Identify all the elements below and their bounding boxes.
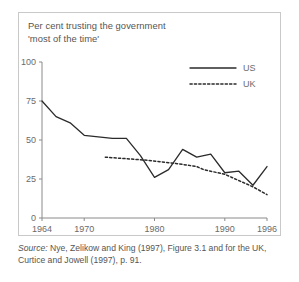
x-tick-label: 1964 <box>32 224 52 234</box>
x-tick-label: 1970 <box>74 224 94 234</box>
x-tick-label: 1980 <box>144 224 164 234</box>
chart-axes <box>39 62 267 221</box>
x-axis-tick-labels: 19641970198019901996 <box>32 224 277 234</box>
chart-series-lines <box>42 101 267 195</box>
chart-legend: USUK <box>190 63 256 89</box>
y-tick-label: 100 <box>21 57 36 67</box>
legend-label-uk: UK <box>243 79 256 89</box>
x-tick-label: 1996 <box>257 224 277 234</box>
y-tick-label: 25 <box>26 174 36 184</box>
y-tick-label: 75 <box>26 96 36 106</box>
source-label: Source: <box>18 243 48 253</box>
y-axis-tick-labels: 0255075100 <box>21 57 36 223</box>
source-line-2: Curtice and Jowell (1997), p. 91. <box>18 255 142 265</box>
x-tick-label: 1990 <box>215 224 235 234</box>
y-tick-label: 0 <box>31 213 36 223</box>
source-caption: Source: Nye, Zelikow and King (1997), Fi… <box>18 243 286 266</box>
chart-figure: Per cent trusting the government 'most o… <box>0 0 299 282</box>
source-line-1: Nye, Zelikow and King (1997), Figure 3.1… <box>50 243 266 253</box>
chart-plot-area: 0255075100 19641970198019901996 USUK <box>18 12 281 236</box>
series-line-us <box>42 101 267 185</box>
legend-label-us: US <box>243 63 256 73</box>
y-tick-label: 50 <box>26 135 36 145</box>
